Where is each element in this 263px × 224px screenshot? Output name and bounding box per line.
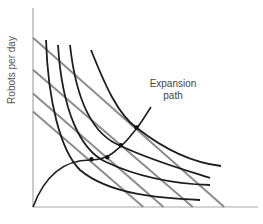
expansion-path-label-line2: path bbox=[163, 90, 182, 101]
isoquant-2 bbox=[58, 45, 210, 185]
tangency-point-1 bbox=[89, 157, 93, 161]
expansion-path-label-line1: Expansion bbox=[150, 78, 197, 89]
tangency-point-4 bbox=[134, 125, 138, 129]
isoquant-1 bbox=[46, 40, 200, 200]
isocost-lines bbox=[33, 38, 224, 207]
tangency-point-3 bbox=[119, 143, 123, 147]
isoquant-diagram: Robots per day Expansion path bbox=[0, 0, 263, 224]
y-axis-label: Robots per day bbox=[6, 36, 17, 104]
isocost-4 bbox=[33, 38, 224, 207]
tangency-point-2 bbox=[105, 155, 109, 159]
isoquant-4 bbox=[91, 50, 221, 166]
isocost-2 bbox=[33, 94, 164, 207]
isoquant-curves bbox=[46, 40, 221, 200]
